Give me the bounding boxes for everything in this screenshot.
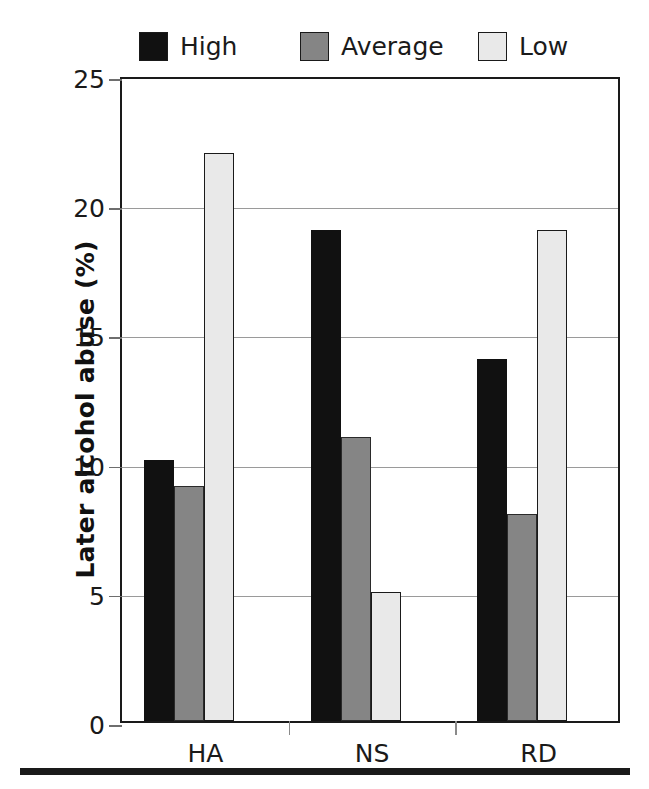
x-axis-tick-1 <box>289 721 291 735</box>
y-tick-label-0: 0 <box>89 711 105 740</box>
chart-legend: High Average Low <box>0 26 649 66</box>
bar-ns-high <box>311 230 341 721</box>
y-tick-mark-15 <box>109 337 122 339</box>
bar-ns-average <box>341 437 371 721</box>
plot-area: 0510152025HANSRD <box>120 77 620 723</box>
legend-entry-average: Average <box>300 29 444 63</box>
legend-entry-low: Low <box>478 29 568 63</box>
legend-label-average: Average <box>341 34 444 59</box>
y-tick-label-10: 10 <box>73 452 105 481</box>
y-tick-label-25: 25 <box>73 65 105 94</box>
x-axis-label-ha: HA <box>187 739 223 768</box>
y-tick-mark-10 <box>109 467 122 469</box>
legend-swatch-high-icon <box>139 32 168 61</box>
y-tick-label-15: 15 <box>73 323 105 352</box>
y-tick-label-5: 5 <box>89 581 105 610</box>
bottom-divider-rule <box>20 768 630 775</box>
bar-rd-high <box>477 359 507 721</box>
gridline-20 <box>122 208 618 209</box>
y-tick-mark-0 <box>109 725 122 727</box>
x-axis-label-ns: NS <box>355 739 390 768</box>
bar-ha-high <box>144 460 174 721</box>
y-tick-mark-5 <box>109 596 122 598</box>
bar-ns-low <box>371 592 401 721</box>
y-tick-mark-20 <box>109 208 122 210</box>
bar-rd-average <box>507 514 537 721</box>
bar-ha-average <box>174 486 204 721</box>
legend-swatch-average-icon <box>300 32 329 61</box>
y-tick-label-20: 20 <box>73 194 105 223</box>
x-axis-label-rd: RD <box>520 739 557 768</box>
legend-entry-high: High <box>139 29 237 63</box>
legend-swatch-low-icon <box>478 32 507 61</box>
y-axis-title: Later alcohol abuse (%) <box>71 200 100 620</box>
legend-label-high: High <box>180 34 237 59</box>
bar-rd-low <box>537 230 567 721</box>
legend-label-low: Low <box>519 34 568 59</box>
y-tick-mark-25 <box>109 79 122 81</box>
x-axis-tick-2 <box>455 721 457 735</box>
bar-ha-low <box>204 153 234 721</box>
